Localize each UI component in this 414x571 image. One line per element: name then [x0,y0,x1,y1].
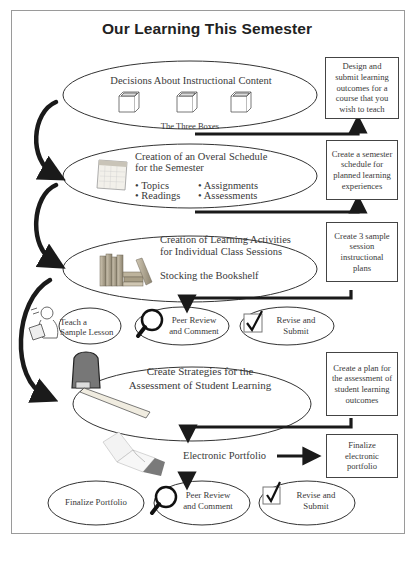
stage2-task-box: Create a semester schedule for planned l… [326,140,398,200]
calendar-icon [97,160,127,190]
checkbox-icon [263,482,280,504]
stage1-caption: The Three Boxes [150,122,230,131]
bullet-readings: • Readings [135,190,180,201]
stage3-task-box: Create 3 sample session instructional pl… [326,222,398,282]
portfolio-peer-line2: and Comment [176,502,240,512]
stage3-label-line2: for Individual Class Sessions [160,246,300,257]
session-revise-line2: Submit [266,327,326,337]
portfolio-revise-line1: Revise and [286,491,346,501]
session-peer-line1: Peer Review [160,316,228,326]
stage4-label-line1: Create Strategies for the [120,366,280,378]
stage2-label-line2: for the Semester [135,162,285,173]
stage3-label-line1: Creation of Learning Activities [160,234,300,245]
portfolio-task-box: Finalize electronic portfolio [326,434,398,478]
portfolio-label: Electronic Portfolio [183,450,283,461]
stage1-task-box: Design and submit learning outcomes for … [325,57,399,119]
teacher-icon [29,307,58,340]
stage4-label-line2: Assessment of Student Learning [120,380,280,392]
stage4-task-box: Create a plan for the assessment of stud… [326,352,398,416]
stage2-label-line1: Creation of an Overal Schedule [135,151,285,162]
flow-curve-arrows [21,102,56,396]
portfolio-finalize-label: Finalize Portfolio [56,498,136,508]
stage3-caption: Stocking the Bookshelf [160,270,300,281]
portfolio-revise-line2: Submit [286,502,346,512]
stage1-label: Decisions About Instructional Content [96,75,286,86]
portfolio-peer-line1: Peer Review [176,491,240,501]
checkbox-icon [244,311,262,332]
bullet-assessments: • Assessments [198,190,257,201]
session-peer-line2: and Comment [160,327,228,337]
session-revise-line1: Revise and [266,316,326,326]
session-teach-line2: Sample Lesson [60,328,120,338]
